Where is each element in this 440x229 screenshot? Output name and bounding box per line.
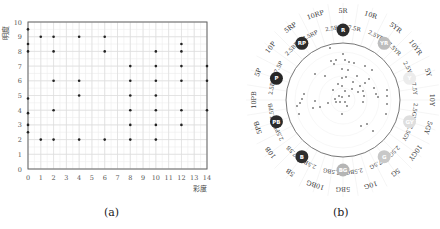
hue-label-outer: 5GY [422, 120, 434, 136]
caption-b: (b) [333, 206, 349, 219]
x-tick-label: 9 [141, 174, 145, 182]
x-tick-label: 12 [177, 174, 185, 182]
hue-label-outer: 5BG [336, 185, 350, 193]
data-point [27, 28, 30, 31]
svg-text:YR: YR [379, 40, 389, 46]
svg-text:GY: GY [405, 119, 414, 125]
hue-label-outer: 10R [363, 9, 379, 21]
data-point [386, 89, 388, 91]
hue-label-outer: 5RP [283, 20, 299, 35]
x-tick-label: 5 [90, 174, 94, 182]
hue-badge-b: B [295, 150, 308, 163]
data-point [129, 80, 132, 83]
hue-badge-bg: BG [337, 164, 350, 177]
data-point [342, 53, 344, 55]
svg-text:G: G [382, 154, 387, 160]
data-point [299, 102, 301, 104]
hue-badge-rp: RP [295, 37, 308, 50]
hue-label-outer: 5YR [388, 21, 404, 36]
data-point [335, 101, 337, 103]
hue-label-outer: 5B [284, 166, 296, 178]
y-tick-label: 6 [18, 77, 22, 85]
data-point [341, 68, 343, 70]
data-point [155, 94, 158, 97]
data-point [356, 75, 358, 77]
hue-label-outer: 5G [389, 166, 401, 178]
data-point [155, 109, 158, 112]
data-point [362, 101, 364, 103]
data-point [206, 80, 209, 83]
y-tick-label: 10 [14, 19, 22, 27]
hue-badge-gy: GY [403, 115, 416, 128]
data-point [341, 113, 343, 115]
data-point [129, 138, 132, 141]
data-point [351, 88, 353, 90]
data-point [348, 61, 350, 63]
data-point [344, 59, 346, 61]
data-point [332, 89, 334, 91]
data-point [180, 124, 183, 127]
y-tick-label: 9 [18, 33, 22, 41]
hue-label-inner: 7.5R [348, 24, 363, 32]
data-point [298, 113, 300, 115]
data-point [333, 63, 335, 65]
data-point [386, 95, 388, 97]
data-point [352, 81, 354, 83]
hue-label-outer: 10BG [305, 178, 325, 191]
data-point [335, 59, 337, 61]
data-point [362, 90, 364, 92]
data-point [155, 65, 158, 68]
hue-label-outer: 10P [264, 40, 278, 55]
polar-hue-chart-b: 5R10R5YR10YR5Y10Y5GY10GY5G10G5BG10BG5B10… [220, 0, 440, 229]
data-point [129, 94, 132, 97]
hue-label-outer: 10B [264, 145, 278, 160]
data-point [337, 83, 339, 85]
hue-label-outer: 5P [253, 67, 263, 78]
data-point [155, 124, 158, 127]
data-points [296, 47, 388, 132]
data-point [334, 98, 336, 100]
data-point [27, 50, 30, 53]
x-tick-label: 4 [77, 174, 81, 182]
data-point [129, 109, 132, 112]
panel-b-hue-circle: 5R10R5YR10YR5Y10Y5GY10GY5G10G5BG10BG5B10… [220, 0, 440, 229]
x-tick-label: 7 [115, 174, 119, 182]
data-point [346, 105, 348, 107]
data-point [39, 35, 42, 38]
data-point [129, 124, 132, 127]
x-tick-label: 11 [165, 174, 173, 182]
data-point [296, 105, 298, 107]
data-point [27, 112, 30, 115]
data-point [344, 90, 346, 92]
data-point [301, 98, 303, 100]
data-point [324, 75, 326, 77]
data-point [330, 60, 332, 62]
data-point [180, 43, 183, 46]
data-point [52, 138, 55, 141]
x-tick-label: 6 [103, 174, 107, 182]
data-point [353, 62, 355, 64]
data-point [341, 96, 343, 98]
hue-label-outer: 5PB [252, 120, 264, 135]
hue-label-outer: 10YR [407, 38, 424, 58]
caption-a: (a) [104, 206, 119, 219]
data-point [329, 47, 331, 49]
data-point [27, 97, 30, 100]
y-tick-label: 2 [18, 136, 22, 144]
data-point [103, 138, 106, 141]
hue-label-outer: 10PB [250, 91, 258, 109]
data-point [314, 73, 316, 75]
y-tick-label: 7 [18, 63, 22, 71]
data-point [373, 87, 375, 89]
data-point [327, 102, 329, 104]
data-point [155, 138, 158, 141]
hue-label-outer: 10RP [306, 8, 326, 21]
data-point [155, 50, 158, 53]
data-point [78, 80, 81, 83]
data-point [363, 95, 365, 97]
hue-badge-yr: YR [378, 37, 391, 50]
data-point [344, 101, 346, 103]
data-point [347, 69, 349, 71]
data-point [180, 109, 183, 112]
hue-badge-g: G [378, 150, 391, 163]
